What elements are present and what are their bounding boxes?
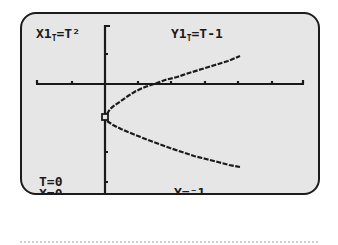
equation-x-label: X1T=T² [36,27,80,42]
equation-y-rhs: =T-1 [191,26,222,41]
calculator-screen: X1T=T² Y1T=T-1 T=0 X=0 Y=⁻1 [20,12,320,195]
equation-y-subscript: T [187,34,192,43]
x-axis [36,80,304,84]
curve-lower-branch [107,121,240,167]
equation-y-prefix: Y1 [171,26,187,41]
equation-x-prefix: X1 [36,26,52,41]
dotted-divider [20,241,320,243]
trace-x-value: X=0 [39,187,62,195]
equation-x-subscript: T [52,34,57,43]
equation-y-label: Y1T=T-1 [171,27,223,42]
trace-y-value: Y=⁻1 [174,186,205,195]
trace-cursor [102,114,108,120]
equation-x-rhs: =T² [56,26,79,41]
parametric-curve [107,56,240,167]
